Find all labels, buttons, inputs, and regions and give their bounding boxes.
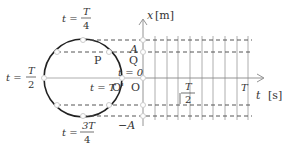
time-half-label: t = T 2 [6, 65, 36, 90]
time-T-label: t = T [90, 82, 117, 93]
svg-text:t =: t = [62, 13, 78, 24]
svg-text:T: T [83, 6, 91, 17]
origin-O-label: O [131, 81, 140, 94]
svg-text:4: 4 [84, 134, 90, 145]
svg-text:t =: t = [6, 72, 22, 83]
svg-text:3T: 3T [82, 120, 96, 131]
time-quarter-label: t = T 4 [62, 6, 91, 31]
time-zero-label: t = 0 [118, 67, 144, 78]
t-axis-unit: [s] [268, 89, 282, 102]
point-P-label: P [94, 54, 102, 67]
amplitude-negative-label: −A [118, 119, 135, 132]
point-Q-label: Q [129, 54, 138, 67]
svg-text:t =: t = [62, 127, 78, 138]
svg-text:2: 2 [28, 79, 34, 90]
t-tick-half-label: T 2 [180, 81, 195, 105]
t-axis-label: t [256, 89, 261, 102]
svg-text:2: 2 [185, 94, 191, 105]
x-axis-label: x [147, 9, 154, 22]
x-axis-unit: [m] [155, 9, 174, 22]
shm-diagram: x [m] t [s] A −A P Q O' O t = 0 t = T t … [0, 0, 291, 158]
t-axis [143, 74, 264, 82]
svg-text:T: T [185, 81, 193, 92]
svg-text:4: 4 [83, 20, 89, 31]
svg-text:T: T [28, 65, 36, 76]
time-threequarter-label: t = 3T 4 [62, 120, 96, 145]
